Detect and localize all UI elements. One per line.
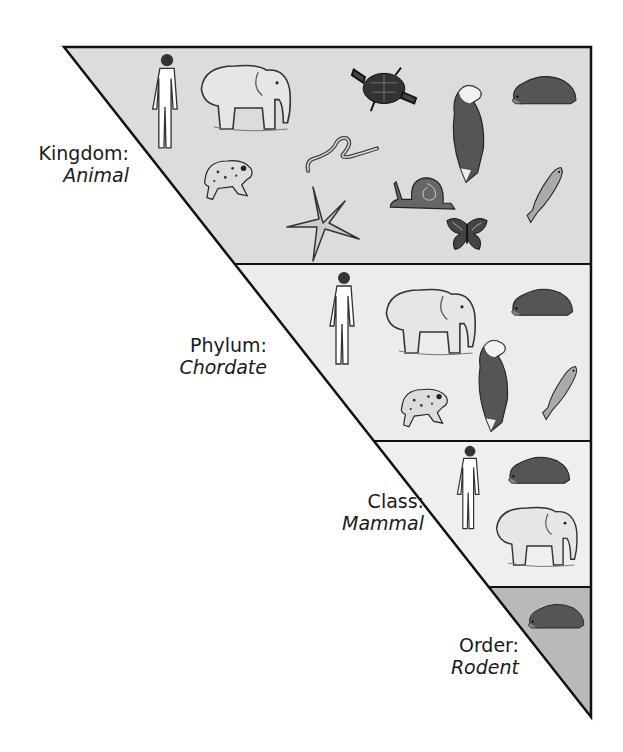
rank-name: Class: [342,490,424,512]
label-kingdom: Kingdom: Animal [39,142,129,186]
classification-triangle [0,0,623,752]
rank-name: Order: [451,634,519,656]
label-phylum: Phylum: Chordate [179,334,267,378]
rank-name: Phylum: [179,334,267,356]
rank-name: Kingdom: [39,142,129,164]
label-order: Order: Rodent [451,634,519,678]
taxon-name: Mammal [342,512,424,534]
band-kingdom [64,47,591,264]
label-class: Class: Mammal [342,490,424,534]
taxon-name: Chordate [179,356,267,378]
taxon-name: Animal [39,164,129,186]
taxon-name: Rodent [451,656,519,678]
